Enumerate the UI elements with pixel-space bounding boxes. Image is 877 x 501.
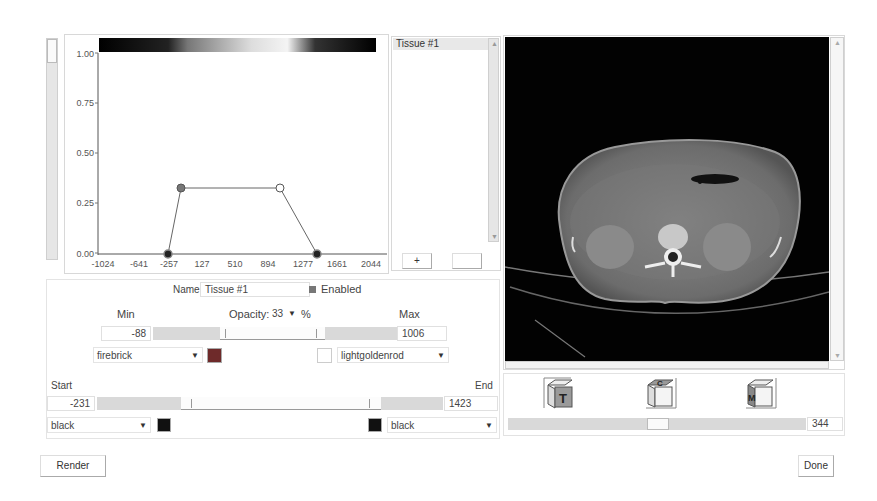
opacity-select[interactable]: 33 ▼ bbox=[269, 306, 299, 322]
scroll-down-icon[interactable]: ▼ bbox=[834, 352, 841, 359]
slice-slider[interactable] bbox=[508, 418, 806, 430]
start-label: Start bbox=[51, 380, 72, 391]
scroll-up-icon[interactable]: ▲ bbox=[491, 40, 498, 47]
svg-text:1277: 1277 bbox=[293, 259, 313, 269]
svg-text:-257: -257 bbox=[160, 259, 178, 269]
end-value-field[interactable]: 1423 bbox=[444, 396, 498, 411]
tissue-list[interactable]: Tissue #1 ▲ ▼ + bbox=[391, 36, 501, 271]
viewer-vertical-scrollbar[interactable]: ▲ ▼ bbox=[830, 37, 844, 361]
add-tissue-button[interactable]: + bbox=[402, 253, 432, 269]
start-end-slider-range[interactable] bbox=[181, 397, 381, 410]
svg-text:0.50: 0.50 bbox=[76, 148, 94, 158]
control-point-end bbox=[313, 250, 321, 258]
chevron-down-icon: ▼ bbox=[288, 306, 296, 321]
max-color-swatch[interactable] bbox=[317, 348, 332, 363]
opacity-value: 33 bbox=[272, 308, 283, 319]
chevron-down-icon: ▼ bbox=[437, 348, 445, 363]
svg-text:127: 127 bbox=[194, 259, 209, 269]
viewer-horizontal-scrollbar[interactable] bbox=[505, 361, 829, 369]
tissue-list-scrollbar[interactable]: ▲ ▼ bbox=[488, 38, 499, 242]
min-value-field[interactable]: -88 bbox=[101, 326, 151, 341]
scroll-up-icon[interactable]: ▲ bbox=[834, 39, 841, 46]
tissue-properties-panel: Name Tissue #1 Enabled Min Opacity: 33 ▼… bbox=[46, 279, 500, 439]
orientation-coronal-button[interactable]: C bbox=[645, 377, 677, 409]
svg-text:C: C bbox=[657, 379, 663, 388]
enabled-checkbox[interactable] bbox=[309, 286, 316, 293]
ct-slice-image[interactable] bbox=[505, 37, 829, 361]
control-point-min bbox=[177, 184, 185, 192]
enabled-label: Enabled bbox=[321, 283, 361, 295]
tissue-list-item[interactable]: Tissue #1 bbox=[393, 38, 490, 50]
slice-value-field[interactable]: 344 bbox=[807, 417, 843, 431]
end-color-select[interactable]: black ▼ bbox=[387, 417, 497, 433]
orientation-sagittal-button[interactable]: M bbox=[745, 377, 777, 409]
name-field[interactable]: Tissue #1 bbox=[200, 282, 310, 297]
svg-text:0.75: 0.75 bbox=[76, 98, 94, 108]
min-color-swatch[interactable] bbox=[207, 348, 222, 363]
min-max-slider-range[interactable] bbox=[220, 327, 325, 340]
cube-transverse-icon: T bbox=[543, 377, 575, 409]
start-handle[interactable] bbox=[191, 399, 192, 408]
max-color-select[interactable]: lightgoldenrod ▼ bbox=[337, 347, 449, 363]
colorbar bbox=[99, 38, 376, 52]
render-button[interactable]: Render bbox=[40, 455, 106, 477]
cube-coronal-icon: C bbox=[645, 377, 677, 409]
min-color-select[interactable]: firebrick ▼ bbox=[93, 347, 203, 363]
transfer-function-chart[interactable]: 1.00 0.75 0.50 0.25 0.00 -1024 -641 -257… bbox=[64, 34, 389, 274]
orientation-transverse-button[interactable]: T bbox=[543, 377, 575, 409]
svg-text:0.00: 0.00 bbox=[76, 249, 94, 259]
start-color-select[interactable]: black ▼ bbox=[47, 417, 151, 433]
opacity-curve bbox=[168, 188, 317, 254]
max-label: Max bbox=[399, 308, 420, 320]
chevron-down-icon: ▼ bbox=[139, 418, 147, 433]
svg-text:894: 894 bbox=[260, 259, 275, 269]
remove-tissue-button[interactable] bbox=[452, 253, 482, 269]
max-value-field[interactable]: 1006 bbox=[397, 326, 447, 341]
end-handle[interactable] bbox=[369, 399, 370, 408]
min-handle[interactable] bbox=[225, 329, 226, 338]
svg-text:-641: -641 bbox=[130, 259, 148, 269]
svg-text:1661: 1661 bbox=[327, 259, 347, 269]
control-point-max bbox=[276, 184, 284, 192]
svg-text:2044: 2044 bbox=[361, 259, 381, 269]
done-button[interactable]: Done bbox=[798, 455, 834, 477]
chevron-down-icon: ▼ bbox=[485, 418, 493, 433]
min-label: Min bbox=[117, 308, 135, 320]
left-scrollbar[interactable] bbox=[46, 38, 58, 260]
svg-text:T: T bbox=[559, 391, 567, 406]
start-color-swatch[interactable] bbox=[157, 418, 171, 432]
ct-image-viewer[interactable]: ▲ ▼ bbox=[503, 35, 845, 370]
slice-slider-handle[interactable] bbox=[647, 418, 669, 430]
cube-sagittal-icon: M bbox=[745, 377, 777, 409]
view-controls: T C M 344 bbox=[503, 373, 845, 436]
ct-scan-render bbox=[505, 37, 829, 361]
svg-text:510: 510 bbox=[227, 259, 242, 269]
chart-canvas[interactable]: 1.00 0.75 0.50 0.25 0.00 -1024 -641 -257… bbox=[65, 35, 390, 275]
svg-text:M: M bbox=[748, 393, 756, 403]
min-max-slider[interactable] bbox=[153, 327, 398, 340]
start-value-field[interactable]: -231 bbox=[47, 396, 95, 411]
name-label: Name bbox=[173, 284, 200, 295]
opacity-unit: % bbox=[301, 308, 311, 320]
end-color-swatch[interactable] bbox=[368, 418, 382, 432]
left-scrollbar-thumb[interactable] bbox=[47, 39, 57, 63]
end-label: End bbox=[475, 380, 493, 391]
svg-text:0.25: 0.25 bbox=[76, 198, 94, 208]
start-end-slider[interactable] bbox=[97, 397, 443, 410]
max-handle[interactable] bbox=[316, 329, 317, 338]
opacity-label: Opacity: bbox=[229, 308, 269, 320]
svg-text:1.00: 1.00 bbox=[76, 49, 94, 59]
chevron-down-icon: ▼ bbox=[191, 348, 199, 363]
control-point-start bbox=[164, 250, 172, 258]
scroll-down-icon[interactable]: ▼ bbox=[491, 233, 498, 240]
svg-text:-1024: -1024 bbox=[91, 259, 114, 269]
